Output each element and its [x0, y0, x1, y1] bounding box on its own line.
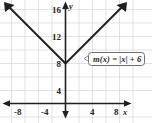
x-tick-label-4: 4	[90, 107, 95, 117]
x-tick-label-8: 8	[114, 107, 119, 117]
y-axis-bottom-arrowhead	[62, 111, 69, 119]
function-equation-callout: m(x) = |x| + 6	[88, 52, 145, 66]
y-tick-label-12: 12	[48, 32, 61, 42]
y-tick-label-8: 8	[48, 59, 61, 69]
x-tick-label-minus-8: -8	[14, 107, 22, 117]
y-tick-label-16: 16	[48, 5, 61, 15]
x-tick-label-minus-4: -4	[41, 107, 49, 117]
y-tick-label-4: 4	[48, 86, 61, 96]
y-axis-top-arrowhead	[62, 2, 69, 10]
x-axis-label: x	[123, 108, 127, 117]
x-axis-left-arrowhead	[3, 100, 11, 107]
x-axis-right-arrowhead	[124, 100, 132, 107]
absolute-value-graph-figure: 16 12 8 4 -8 -4 4 8 x y m(x) = |x| + 6	[0, 0, 152, 123]
y-axis-label: y	[69, 2, 73, 11]
